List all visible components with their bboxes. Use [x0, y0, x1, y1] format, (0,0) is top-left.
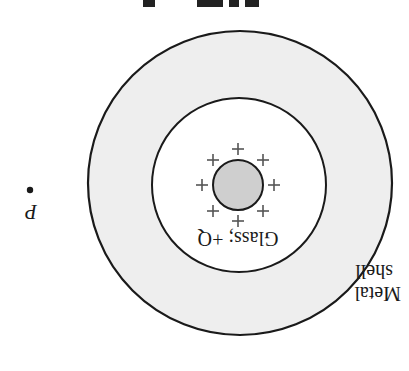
- charged-glass-sphere-in-metal-shell-diagram: Glass; +Q Metal shell P: [0, 0, 409, 371]
- point-p-dot: [27, 187, 33, 193]
- glass-label: Glass; +Q: [197, 228, 278, 250]
- metal-shell-label-line1: Metal: [354, 283, 401, 305]
- point-p-label: P: [25, 201, 38, 223]
- metal-shell-label-line2: shell: [355, 261, 393, 283]
- glass-sphere: [213, 160, 263, 210]
